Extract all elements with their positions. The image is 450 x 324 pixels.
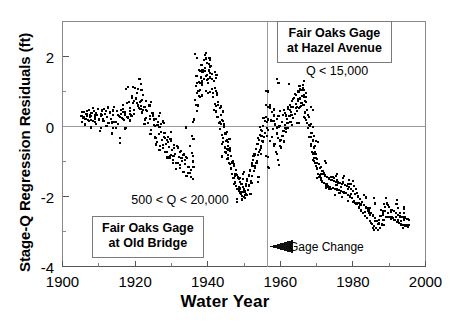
chart-container: 190019201940196019802000 20-2-4 Water Ye… bbox=[0, 0, 450, 324]
old-bridge-box-line-1: Fair Oaks Gage bbox=[102, 221, 194, 236]
hazel-box-line-1: Fair Oaks Gage bbox=[287, 26, 382, 41]
old-bridge-box-line-2: at Old Bridge bbox=[102, 236, 194, 251]
x-tick-label-1920: 1920 bbox=[118, 273, 151, 290]
x-tick-label-1980: 1980 bbox=[336, 273, 369, 290]
x-tick-label-2000: 2000 bbox=[409, 273, 442, 290]
gage-change-label: Gage Change bbox=[289, 240, 364, 254]
old-bridge-annotation-box: Fair Oaks Gage at Old Bridge bbox=[92, 216, 204, 258]
y-axis-title: Stage-Q Regression Residuals (ft) bbox=[16, 33, 33, 272]
hazel-avenue-annotation-box: Fair Oaks Gage at Hazel Avenue bbox=[277, 21, 392, 63]
x-axis-title: Water Year bbox=[0, 292, 450, 312]
x-tick-label-1940: 1940 bbox=[191, 273, 224, 290]
x-tick-label-1960: 1960 bbox=[264, 273, 297, 290]
hazel-box-line-2: at Hazel Avenue bbox=[287, 41, 382, 56]
x-tick-label-1900: 1900 bbox=[46, 273, 79, 290]
old-bridge-q-range: 500 < Q < 20,000 bbox=[105, 193, 255, 207]
hazel-avenue-q-range: Q < 15,000 bbox=[277, 64, 397, 78]
